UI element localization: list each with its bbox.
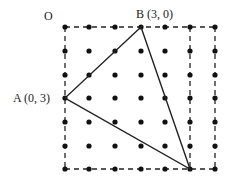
lattice-dot xyxy=(187,95,192,100)
lattice-dot xyxy=(212,119,217,124)
lattice-dot xyxy=(138,166,143,171)
lattice-dot xyxy=(112,95,117,100)
lattice-dot xyxy=(86,95,91,100)
lattice-dot xyxy=(62,72,67,77)
lattice-dot xyxy=(212,143,217,148)
lattice-dot xyxy=(62,166,67,171)
lattice-dot xyxy=(212,95,217,100)
lattice-dot xyxy=(187,24,192,29)
lattice-dot xyxy=(212,72,217,77)
lattice-dot xyxy=(162,166,167,171)
lattice-dot xyxy=(112,166,117,171)
triangle-abc xyxy=(65,27,190,169)
lattice-dot xyxy=(212,166,217,171)
lattice-dot xyxy=(187,143,192,148)
point-a-label: A (0, 3) xyxy=(13,92,50,104)
lattice-dot xyxy=(112,72,117,77)
lattice-dot xyxy=(62,119,67,124)
lattice-dot xyxy=(112,143,117,148)
lattice-dots xyxy=(62,24,217,171)
lattice-dot xyxy=(62,48,67,53)
lattice-dot xyxy=(212,24,217,29)
lattice-dot xyxy=(112,119,117,124)
lattice-dot xyxy=(62,143,67,148)
lattice-dot xyxy=(86,166,91,171)
lattice-dot xyxy=(212,48,217,53)
lattice-dot xyxy=(162,72,167,77)
lattice-dot xyxy=(62,24,67,29)
origin-label: O xyxy=(44,10,53,22)
point-b-label: B (3, 0) xyxy=(136,8,173,20)
lattice-dot xyxy=(162,48,167,53)
lattice-dot xyxy=(162,119,167,124)
lattice-dot xyxy=(187,72,192,77)
lattice-dot xyxy=(86,119,91,124)
lattice-dot xyxy=(112,24,117,29)
lattice-dot xyxy=(138,72,143,77)
lattice-dot xyxy=(138,119,143,124)
lattice-dot xyxy=(138,95,143,100)
lattice-dot xyxy=(162,24,167,29)
lattice-dot xyxy=(187,119,192,124)
lattice-dot xyxy=(86,143,91,148)
lattice-dot xyxy=(86,48,91,53)
lattice-dot xyxy=(162,143,167,148)
lattice-dot xyxy=(138,48,143,53)
lattice-dot xyxy=(86,24,91,29)
lattice-dot xyxy=(138,143,143,148)
lattice-dot xyxy=(187,48,192,53)
